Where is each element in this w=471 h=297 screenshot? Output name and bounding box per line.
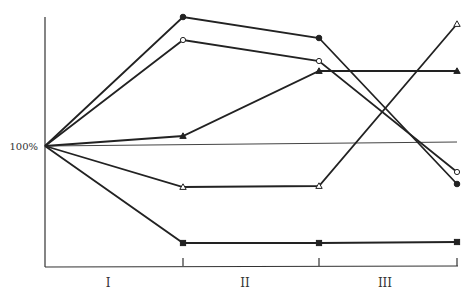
open-triangle-line — [45, 24, 457, 187]
series-group — [45, 14, 460, 245]
filled-circle-marker — [180, 14, 186, 20]
filled-square-marker — [454, 239, 459, 244]
line-chart: 100% I II III — [0, 0, 471, 297]
filled-square-marker — [316, 240, 321, 245]
filled-square-marker — [180, 240, 185, 245]
filled-square-line — [45, 146, 457, 243]
open-circle-marker — [454, 169, 459, 174]
open-circle-marker — [180, 37, 185, 42]
x-tick-label-1: I — [106, 276, 111, 290]
filled-circle-marker — [454, 181, 460, 187]
x-tick-label-2: II — [240, 276, 250, 290]
y-reference-label: 100% — [9, 141, 38, 152]
reference-line-100 — [45, 142, 457, 146]
x-axis — [45, 266, 458, 267]
open-circle-marker — [316, 58, 321, 63]
open-circle-line — [45, 40, 457, 172]
filled-triangle-line — [45, 71, 457, 146]
x-tick-label-3: III — [378, 276, 392, 290]
filled-circle-marker — [316, 35, 322, 41]
open-triangle-marker — [454, 21, 460, 27]
filled-circle-line — [45, 17, 457, 184]
